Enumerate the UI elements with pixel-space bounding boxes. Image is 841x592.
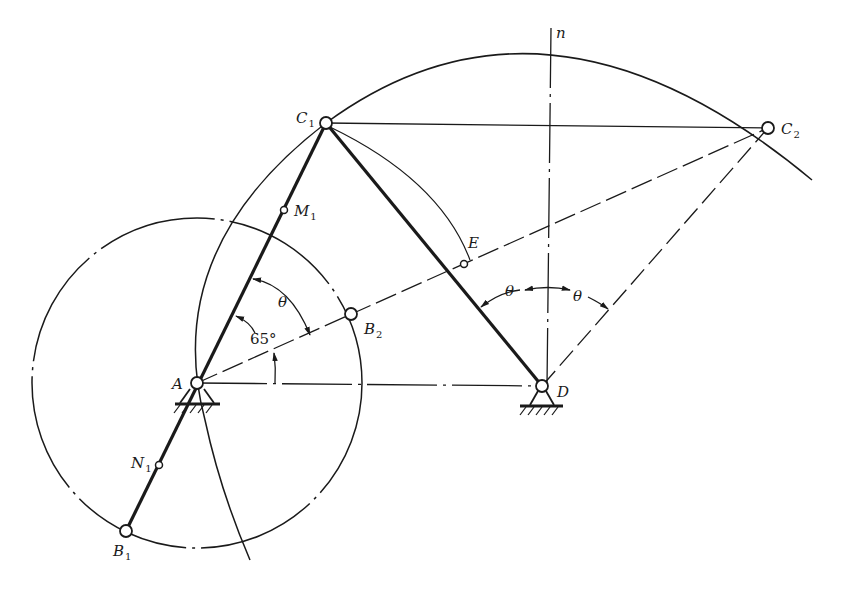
label-theta-A: θ: [278, 293, 287, 311]
joint-C1: [320, 117, 332, 129]
link-B1-C1: [126, 123, 326, 531]
label-theta-D-right: θ: [573, 287, 582, 305]
linkage-diagram: A D C1 C2 B1 B2 M1 N1 E n θ 65° θ θ: [0, 0, 841, 592]
angle-arc-small-A: [274, 353, 275, 383]
joint-M1: [281, 207, 288, 214]
joint-D: [536, 380, 548, 392]
label-n: n: [556, 24, 566, 42]
label-D: D: [556, 383, 569, 401]
joint-C2: [762, 122, 774, 134]
joint-A: [191, 377, 203, 389]
joint-E: [461, 261, 468, 268]
line-D-C2: [542, 128, 768, 386]
label-A: A: [170, 375, 183, 393]
line-A-C2: [197, 128, 768, 383]
label-C2: C2: [781, 120, 800, 140]
angle-arc-theta-D-left: [481, 290, 520, 307]
label-65-deg: 65°: [250, 330, 277, 348]
label-N1: N1: [130, 454, 152, 474]
joint-B1: [120, 525, 132, 537]
label-B2: B2: [363, 320, 382, 340]
label-E: E: [467, 234, 479, 252]
label-M1: M1: [293, 202, 317, 222]
label-theta-D-left: θ: [505, 282, 514, 300]
label-B1: B1: [112, 542, 131, 562]
line-C1-C2: [326, 123, 768, 128]
joint-B2: [345, 308, 357, 320]
angle-arc-theta-D-right: [588, 297, 608, 309]
label-C1: C1: [296, 109, 315, 129]
line-A-D: [197, 383, 542, 386]
arc-C1-E: [330, 127, 470, 260]
joint-N1: [156, 462, 163, 469]
axis-n: [547, 28, 551, 386]
